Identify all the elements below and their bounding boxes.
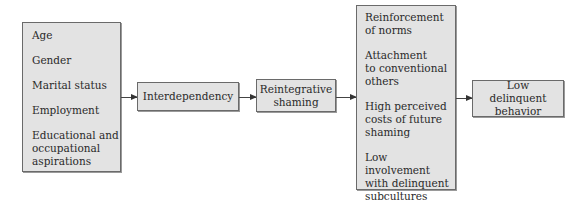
factor-age: Age <box>32 29 120 42</box>
arrow-factors-to-interdependency <box>121 97 137 98</box>
outcome-box: Low delinquent behavior <box>472 80 564 117</box>
factor-aspirations: Educational and occupational aspirations <box>32 129 120 168</box>
interdependency-box: Interdependency <box>137 82 239 111</box>
reintegrative-shaming-box: Reintegrative shaming <box>256 79 336 112</box>
mechanism-reinforcement: Reinforcement of norms <box>365 11 455 37</box>
mechanism-perceived-costs: High perceived costs of future shaming <box>365 100 455 139</box>
individual-factors-box: Age Gender Marital status Employment Edu… <box>22 22 121 172</box>
mechanism-low-involvement: Low involvement with delinquent subcultu… <box>365 151 455 200</box>
factor-employment: Employment <box>32 104 120 117</box>
factor-marital-status: Marital status <box>32 79 120 92</box>
interdependency-label: Interdependency <box>143 90 234 103</box>
arrow-shaming-to-mechanisms <box>336 97 356 98</box>
outcome-label: Low delinquent behavior <box>477 79 559 118</box>
factor-gender: Gender <box>32 54 120 67</box>
mechanisms-box: Reinforcement of norms Attachment to con… <box>356 5 456 190</box>
arrow-mechanisms-to-outcome <box>456 98 472 99</box>
arrow-interdependency-to-shaming <box>239 97 256 98</box>
mechanism-attachment: Attachment to conventional others <box>365 49 455 88</box>
reintegrative-shaming-label: Reintegrative shaming <box>260 83 332 109</box>
